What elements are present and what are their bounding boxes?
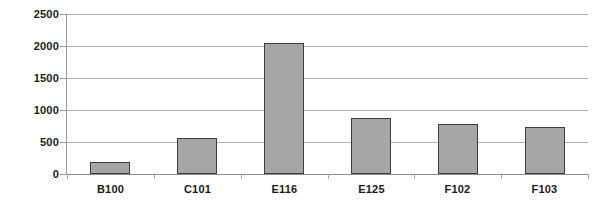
bar	[525, 127, 565, 174]
x-axis-tick	[154, 174, 155, 179]
x-axis-category-label: F103	[501, 182, 588, 196]
x-axis-ticks	[67, 174, 588, 180]
y-axis-tick	[60, 110, 66, 111]
x-axis-labels: B100C101E116E125F102F103	[67, 182, 588, 202]
y-axis-tick-label: 2500	[0, 9, 59, 20]
x-axis-tick	[328, 174, 329, 179]
x-axis-tick	[501, 174, 502, 179]
y-axis-tick	[60, 142, 66, 143]
y-axis-tick-label: 1500	[0, 73, 59, 84]
x-axis-tick	[414, 174, 415, 179]
bar-series	[67, 14, 588, 174]
y-axis-tick	[60, 174, 66, 175]
bar	[351, 118, 391, 174]
x-axis-category-label: E125	[328, 182, 415, 196]
y-axis-tick-label: 0	[0, 169, 59, 180]
x-axis-category-label: B100	[67, 182, 154, 196]
y-axis-labels: 2500 2000 1500 1000 500 0	[0, 0, 59, 209]
y-axis-tick-label: 500	[0, 137, 59, 148]
y-axis-tick-label: 1000	[0, 105, 59, 116]
y-axis-tick	[60, 46, 66, 47]
x-axis-category-label: F102	[414, 182, 501, 196]
bar	[90, 162, 130, 174]
x-axis-tick	[588, 174, 589, 179]
y-axis-tick-label: 2000	[0, 41, 59, 52]
x-axis-tick	[241, 174, 242, 179]
bar	[177, 138, 217, 174]
x-axis-tick	[67, 174, 68, 179]
y-axis-tick	[60, 78, 66, 79]
x-axis-category-label: C101	[154, 182, 241, 196]
x-axis-category-label: E116	[241, 182, 328, 196]
bar	[438, 124, 478, 174]
bar	[264, 43, 304, 174]
bar-chart: 2500 2000 1500 1000 500 0 B100C101E116E1…	[0, 0, 614, 209]
y-axis-tick	[60, 14, 66, 15]
